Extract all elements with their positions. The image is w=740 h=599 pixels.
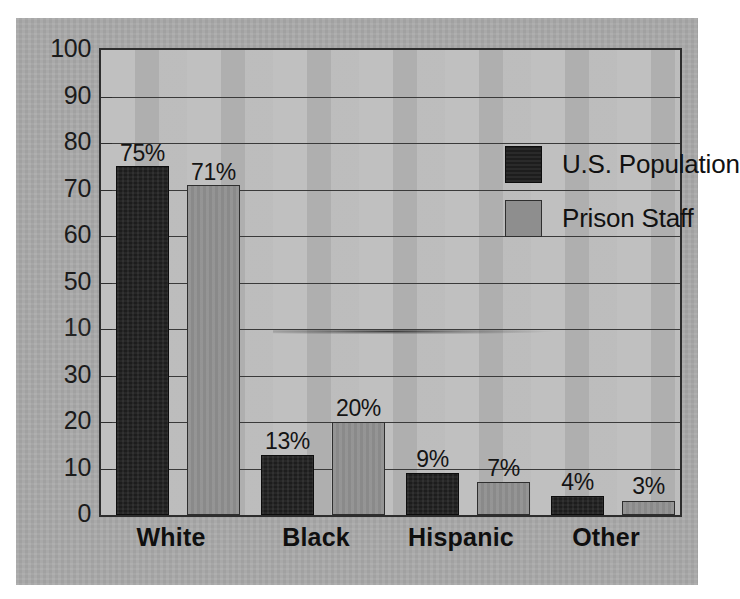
y-axis-label-80: 80: [35, 129, 91, 154]
gridline-80: [101, 143, 680, 144]
value-label-black-population: 13%: [261, 430, 314, 453]
legend-label-prison-staff: Prison Staff: [562, 203, 694, 234]
y-axis-label-20: 20: [35, 408, 91, 433]
bar-black-population[interactable]: [261, 455, 314, 516]
y-axis-label-70: 70: [35, 175, 91, 200]
legend-item-us-population[interactable]: U.S. Population: [505, 146, 740, 183]
y-axis-tickmark-80: [101, 143, 112, 144]
y-axis: 100 90 80 70 60 50 10 30 20 10 0: [27, 48, 91, 513]
bar-black-staff[interactable]: [332, 422, 385, 515]
y-axis-label-90: 90: [35, 82, 91, 107]
y-axis-tickmark-60: [101, 236, 112, 237]
y-axis-label-100: 100: [35, 36, 91, 61]
bar-hispanic-staff[interactable]: [477, 482, 530, 515]
x-axis-label-white: White: [101, 523, 241, 552]
value-label-other-population: 4%: [551, 471, 604, 494]
y-axis-label-50: 50: [35, 268, 91, 293]
y-axis-tickmark-50: [101, 283, 112, 284]
y-axis-label-40: 10: [35, 315, 91, 340]
legend-label-us-population: U.S. Population: [562, 149, 740, 180]
bar-white-staff[interactable]: [187, 185, 240, 515]
value-label-hispanic-population: 9%: [406, 448, 459, 471]
y-axis-label-0: 0: [35, 501, 91, 526]
y-axis-label-60: 60: [35, 222, 91, 247]
y-axis-label-10: 10: [35, 454, 91, 479]
legend-item-prison-staff[interactable]: Prison Staff: [505, 200, 694, 237]
y-axis-tickmark-10: [101, 469, 112, 470]
y-axis-tickmark-30: [101, 376, 112, 377]
x-axis-label-hispanic: Hispanic: [391, 523, 531, 552]
value-label-white-staff: 71%: [187, 161, 240, 184]
bar-other-population[interactable]: [551, 496, 604, 515]
value-label-hispanic-staff: 7%: [477, 457, 530, 480]
y-axis-tickmark-20: [101, 422, 112, 423]
y-axis-tickmark-40: [101, 329, 112, 330]
value-label-black-staff: 20%: [332, 397, 385, 420]
plot-area: 75% 71% 13% 20% 9% 7% 4% 3% U.S. Populat…: [99, 48, 682, 517]
y-axis-label-30: 30: [35, 361, 91, 386]
value-label-other-staff: 3%: [622, 475, 675, 498]
gridline-90: [101, 97, 680, 98]
bar-white-population[interactable]: [116, 166, 169, 515]
bar-other-staff[interactable]: [622, 501, 675, 515]
legend-gray-swatch-icon: [505, 200, 542, 237]
y-axis-tickmark-90: [101, 97, 112, 98]
y-axis-tickmark-70: [101, 190, 112, 191]
value-label-white-population: 75%: [116, 142, 169, 165]
legend-dark-swatch-icon: [505, 146, 542, 183]
x-axis-label-other: Other: [536, 523, 676, 552]
bar-hispanic-population[interactable]: [406, 473, 459, 515]
x-axis-label-black: Black: [246, 523, 386, 552]
scan-smudge-artifact: [273, 329, 603, 334]
